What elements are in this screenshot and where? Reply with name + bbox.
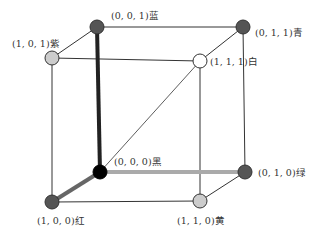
label-coord: (0, 0, 0): [114, 156, 152, 167]
vertex-green: [238, 165, 252, 179]
label-color-name: 红: [75, 215, 85, 226]
red-axis: [52, 172, 100, 202]
vertex-red: [45, 195, 59, 209]
vertex-blue: [90, 20, 104, 34]
vertex-white: [193, 54, 207, 68]
label-color-name: 黄: [215, 215, 225, 226]
cube-edges: [52, 27, 245, 202]
label-coord: (1, 0, 0): [37, 215, 75, 226]
label-green: (0, 1, 0)绿: [258, 168, 306, 178]
vertex-cyan: [236, 20, 250, 34]
label-color-name: 蓝: [149, 10, 159, 21]
label-coord: (0, 1, 1): [255, 27, 293, 38]
label-color-name: 黑: [152, 156, 162, 167]
label-white: (1, 1, 1)白: [210, 57, 258, 67]
label-coord: (0, 1, 0): [258, 167, 296, 178]
label-magenta: (1, 0, 1)紫: [12, 39, 60, 49]
blue-axis: [97, 27, 100, 172]
label-color-name: 白: [248, 56, 258, 67]
vertex-magenta: [45, 51, 59, 65]
label-color-name: 绿: [296, 167, 306, 178]
label-color-name: 紫: [50, 38, 60, 49]
label-blue: (0, 0, 1)蓝: [111, 11, 159, 21]
label-coord: (1, 1, 0): [177, 215, 215, 226]
label-coord: (1, 0, 1): [12, 38, 50, 49]
label-coord: (1, 1, 1): [210, 56, 248, 67]
label-cyan: (0, 1, 1)青: [255, 28, 303, 38]
label-black: (0, 0, 0)黑: [114, 157, 162, 167]
vertex-black: [93, 165, 107, 179]
label-coord: (0, 0, 1): [111, 10, 149, 21]
label-red: (1, 0, 0)红: [37, 216, 85, 226]
vertex-yellow: [193, 194, 207, 208]
label-color-name: 青: [293, 27, 303, 38]
label-yellow: (1, 1, 0)黄: [177, 216, 225, 226]
